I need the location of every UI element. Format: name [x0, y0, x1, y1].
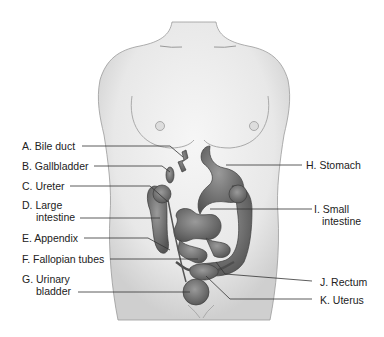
anatomy-diagram: A. Bile duct B. Gallbladder C. Ureter D.… [0, 0, 384, 337]
label-urinary-bladder: G. Urinarybladder [22, 273, 71, 297]
uterus-shape [190, 264, 219, 280]
label-stomach: H. Stomach [306, 159, 361, 171]
label-appendix: E. Appendix [22, 232, 78, 244]
label-gallbladder: B. Gallbladder [22, 160, 89, 172]
label-small-intestine: I. Smallintestine [314, 203, 361, 227]
nipple-right [250, 122, 259, 131]
nipple-left [156, 122, 165, 131]
label-fallopian-tubes: F. Fallopian tubes [22, 253, 104, 265]
label-bile-duct: A. Bile duct [22, 140, 75, 152]
label-ureter: C. Ureter [22, 180, 65, 192]
label-uterus: K. Uterus [320, 294, 364, 306]
label-large-intestine: D. Largeintestine [22, 199, 75, 223]
label-rectum: J. Rectum [320, 276, 367, 288]
